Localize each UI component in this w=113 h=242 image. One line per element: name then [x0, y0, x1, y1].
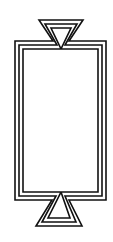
- frame-outline: [15, 20, 106, 226]
- ornamental-frame: [0, 0, 113, 242]
